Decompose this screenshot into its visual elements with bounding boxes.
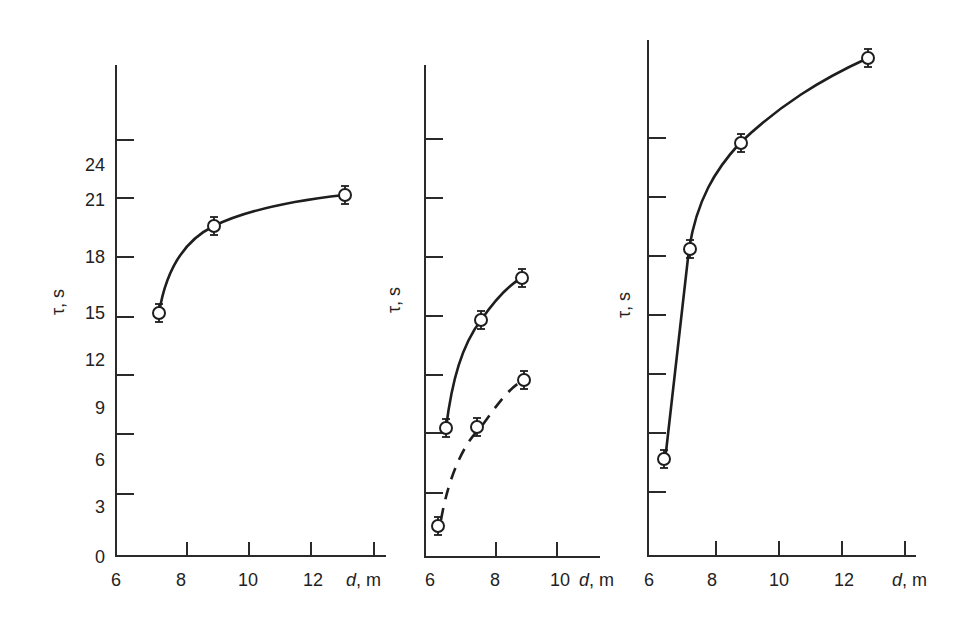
svg-text:10: 10 bbox=[550, 570, 570, 590]
x-axis-label: d, m bbox=[579, 570, 614, 590]
x-ticks bbox=[187, 542, 374, 556]
svg-text:8: 8 bbox=[707, 570, 717, 590]
svg-text:0: 0 bbox=[95, 547, 105, 567]
data-points-left bbox=[153, 186, 351, 322]
curve-middle-dashed bbox=[441, 380, 524, 520]
data-point bbox=[518, 371, 530, 389]
x-tick-labels: 6 8 10 bbox=[425, 570, 570, 590]
svg-text:21: 21 bbox=[85, 190, 105, 210]
svg-text:6: 6 bbox=[111, 570, 121, 590]
curve-right bbox=[666, 58, 868, 452]
svg-text:6: 6 bbox=[95, 450, 105, 470]
y-tick-labels: 0 3 6 9 12 15 18 21 24 bbox=[85, 155, 105, 567]
y-ticks bbox=[425, 139, 443, 493]
svg-text:10: 10 bbox=[238, 570, 258, 590]
x-axis-label: d, m bbox=[346, 570, 381, 590]
svg-text:15: 15 bbox=[85, 303, 105, 323]
y-axis-label: τ, s bbox=[48, 289, 68, 315]
data-point bbox=[684, 240, 696, 258]
svg-text:12: 12 bbox=[303, 570, 323, 590]
svg-text:8: 8 bbox=[490, 570, 500, 590]
data-point bbox=[471, 418, 483, 436]
svg-text:9: 9 bbox=[95, 398, 105, 418]
svg-text:8: 8 bbox=[176, 570, 186, 590]
figure: 0 3 6 9 12 15 18 21 24 6 8 10 12 d, m τ,… bbox=[0, 0, 978, 630]
svg-text:24: 24 bbox=[85, 155, 105, 175]
panel-middle: 6 8 10 d, m τ, s bbox=[384, 65, 614, 590]
data-points-right bbox=[658, 49, 874, 468]
panel-right: 6 8 10 12 d, m τ, s bbox=[614, 40, 927, 590]
svg-text:6: 6 bbox=[644, 570, 654, 590]
y-axis-label: τ, s bbox=[384, 287, 404, 313]
x-tick-labels: 6 8 10 12 bbox=[111, 570, 323, 590]
svg-text:3: 3 bbox=[95, 497, 105, 517]
y-ticks bbox=[648, 138, 666, 492]
x-tick-labels: 6 8 10 12 bbox=[644, 570, 854, 590]
svg-text:12: 12 bbox=[834, 570, 854, 590]
panel-left: 0 3 6 9 12 15 18 21 24 6 8 10 12 d, m τ,… bbox=[48, 65, 386, 590]
data-point bbox=[440, 419, 452, 437]
data-point bbox=[208, 217, 220, 235]
svg-text:6: 6 bbox=[425, 570, 435, 590]
x-axis-label: d, m bbox=[892, 570, 927, 590]
x-ticks bbox=[496, 542, 557, 557]
curve-left bbox=[159, 195, 344, 313]
svg-text:10: 10 bbox=[769, 570, 789, 590]
y-ticks bbox=[116, 140, 134, 494]
y-axis-label: τ, s bbox=[614, 292, 634, 318]
svg-text:12: 12 bbox=[85, 350, 105, 370]
data-point bbox=[862, 49, 874, 67]
svg-text:18: 18 bbox=[85, 247, 105, 267]
data-point bbox=[339, 186, 351, 204]
data-point bbox=[516, 269, 528, 287]
curve-middle-solid bbox=[446, 278, 522, 428]
x-ticks bbox=[716, 541, 905, 556]
data-point bbox=[153, 304, 165, 322]
data-point bbox=[658, 450, 670, 468]
